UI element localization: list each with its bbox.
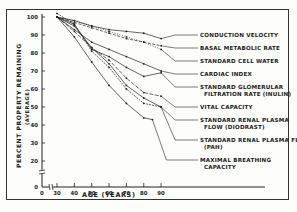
x-tick-label: 0 [40, 190, 44, 196]
x-axis-label: AGE (YEARS) [82, 191, 135, 199]
data-point [126, 85, 128, 87]
data-point [91, 61, 93, 63]
data-point [108, 29, 110, 31]
data-point [56, 13, 58, 15]
data-point [143, 117, 145, 119]
y-tick-label: 30 [30, 140, 38, 146]
data-point [91, 50, 93, 52]
leader-line [161, 71, 198, 74]
leader-line [161, 49, 198, 61]
y-axis-label: PERCENT PROPERTY REMAINING [15, 43, 22, 168]
x-tick-label: 90 [157, 190, 165, 196]
legend-leader-lines [152, 35, 198, 160]
y-tick-label: 40 [30, 122, 38, 128]
data-point [143, 76, 145, 78]
series-lines [56, 13, 162, 121]
legend-gfr-line2: FILTRATION RATE (INULIN) [204, 91, 291, 98]
data-point [126, 56, 128, 58]
data-point [126, 77, 128, 79]
leader-line [161, 96, 198, 107]
y-tick-label: 70 [30, 68, 38, 74]
legend-gfr-line1: STANDARD GLOMERULAR [200, 84, 283, 91]
data-point [56, 16, 58, 18]
legend-basal-metabolic-rate: BASAL METABOLIC RATE [200, 45, 280, 52]
data-point [143, 103, 145, 105]
data-point [108, 67, 110, 69]
legend-rpf-pah-line1: STANDARD RENAL PLASMA FLOW [200, 137, 297, 144]
legend-rpf-pah-line2: (PAH) [204, 144, 223, 151]
data-point [91, 25, 93, 27]
y-tick-label: 100 [27, 14, 39, 20]
data-point [108, 49, 110, 51]
y-tick-label: 80 [30, 50, 38, 56]
y-tick-label: 20 [30, 158, 38, 164]
data-point [143, 92, 145, 94]
legend-cardiac-index: CARDIAC INDEX [200, 71, 252, 78]
data-point [126, 103, 128, 105]
y-axis-sublabel: (AVERAGE) [24, 89, 30, 125]
leader-line [161, 35, 198, 39]
data-point [126, 31, 128, 33]
data-point [143, 32, 145, 34]
legend-vital-capacity: VITAL CAPACITY [200, 104, 253, 111]
data-point [108, 85, 110, 87]
data-point [73, 31, 75, 33]
data-point [91, 47, 93, 49]
legend-rpf-diodrast-line1: STANDARD RENAL PLASMA [200, 117, 289, 124]
data-point [108, 63, 110, 65]
data-point [126, 38, 128, 40]
data-point [73, 29, 75, 31]
legend-max-breathing-line1: MAXIMAL BREATHING [200, 157, 271, 164]
data-point [73, 23, 75, 25]
y-tick-label: 90 [30, 32, 38, 38]
y-tick-label: 50 [30, 104, 38, 110]
data-point [73, 36, 75, 38]
data-point [108, 56, 110, 58]
data-point [143, 97, 145, 99]
legend-max-breathing-line2: CAPACITY [204, 164, 236, 171]
data-point [73, 20, 75, 22]
legend-conduction-velocity: CONDUCTION VELOCITY [200, 32, 278, 39]
legend-standard-cell-water: STANDARD CELL WATER [200, 58, 279, 65]
x-tick-label: 40 [71, 190, 79, 196]
y-tick-label: 0 [34, 184, 38, 190]
leader-line [161, 107, 198, 120]
leader-line [161, 46, 198, 48]
data-point [73, 22, 75, 24]
data-point [91, 41, 93, 43]
data-point [108, 31, 110, 33]
data-point [91, 27, 93, 29]
leader-line [161, 73, 198, 87]
data-point [126, 88, 128, 90]
data-point [126, 67, 128, 69]
x-tick-label: 30 [53, 190, 61, 196]
legend-rpf-diodrast-line2: FLOW (DIODRAST) [204, 124, 265, 131]
data-point [143, 63, 145, 65]
data-point [143, 41, 145, 43]
data-point [108, 59, 110, 61]
y-tick-label: 60 [30, 86, 38, 92]
data-point [108, 32, 110, 34]
x-tick-label: 80 [140, 190, 148, 196]
data-point [126, 36, 128, 38]
